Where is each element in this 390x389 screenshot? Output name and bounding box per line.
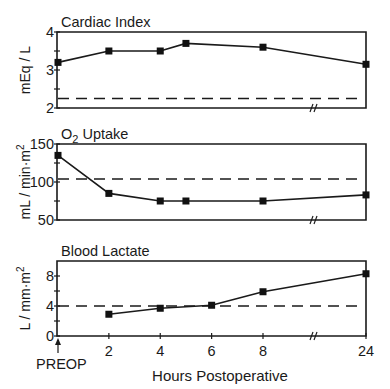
panel-cardiac-index: Cardiac Index234mEq / L <box>17 14 370 116</box>
x-axis-label: Hours Postoperative <box>152 367 288 384</box>
panel-title: Cardiac Index <box>61 14 151 30</box>
panel-title: O2 Uptake <box>61 126 128 145</box>
data-point-marker <box>55 152 62 159</box>
data-point-marker <box>260 44 267 51</box>
x-tick-label: 8 <box>259 343 267 359</box>
data-point-marker <box>208 302 215 309</box>
y-axis-label: mL / min·m2 <box>15 144 33 219</box>
y-tick-label: 3 <box>46 62 54 78</box>
panel-title: Blood Lactate <box>61 243 150 259</box>
panel-o2-uptake: O2 Uptake50100150mL / min·m2 <box>15 126 370 228</box>
data-point-marker <box>55 59 62 66</box>
y-axis-label: mEq / L <box>17 46 33 94</box>
y-tick-label: 4 <box>46 24 54 40</box>
x-tick-label: 2 <box>105 343 113 359</box>
y-axis-label: L / mm·m2 <box>15 266 33 331</box>
data-point-marker <box>363 191 370 198</box>
x-tick-label: 6 <box>208 343 216 359</box>
data-point-marker <box>363 61 370 68</box>
data-point-marker <box>260 288 267 295</box>
x-tick-label: 4 <box>156 343 164 359</box>
data-line <box>58 43 366 64</box>
data-point-marker <box>182 40 189 47</box>
data-point-marker <box>157 48 164 55</box>
data-line <box>109 274 366 315</box>
x-tick-label: 24 <box>358 343 374 359</box>
data-point-marker <box>182 198 189 205</box>
plot-frame <box>57 32 366 108</box>
y-tick-label: 50 <box>38 212 54 228</box>
data-point-marker <box>105 311 112 318</box>
y-tick-label: 150 <box>30 136 54 152</box>
plot-frame <box>57 144 366 220</box>
panel-blood-lactate: Blood Lactate048L / mm·m2246824PREOPHour… <box>15 243 374 384</box>
data-point-marker <box>157 198 164 205</box>
y-tick-label: 4 <box>46 298 54 314</box>
data-point-marker <box>105 48 112 55</box>
y-tick-label: 100 <box>30 174 54 190</box>
y-tick-label: 0 <box>46 328 54 344</box>
data-point-marker <box>363 270 370 277</box>
preop-label: PREOP <box>36 356 87 372</box>
y-tick-label: 8 <box>46 268 54 284</box>
y-tick-label: 2 <box>46 100 54 116</box>
data-point-marker <box>157 305 164 312</box>
data-point-marker <box>260 198 267 205</box>
data-point-marker <box>105 190 112 197</box>
plot-frame <box>57 261 366 336</box>
chart: Cardiac Index234mEq / LO2 Uptake50100150… <box>0 0 390 389</box>
